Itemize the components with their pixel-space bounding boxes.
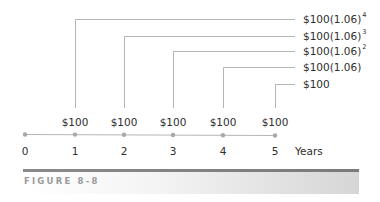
fv-base: $100(1.06)	[303, 45, 361, 57]
fv-exponent: 4	[362, 11, 366, 19]
year-label-1: 1	[72, 146, 79, 157]
fv-base: $100(1.06)	[303, 61, 361, 73]
payment-label-year-1: $100	[62, 117, 89, 128]
timeline-axis	[25, 135, 275, 136]
year-label-4: 4	[220, 146, 227, 157]
payment-label-year-2: $100	[111, 117, 138, 128]
connector-line-year-1	[76, 20, 296, 109]
timeline-dot-0	[23, 132, 27, 136]
timeline-dot-4	[221, 133, 225, 137]
payment-label-year-4: $100	[210, 117, 237, 128]
fv-base: $100	[303, 78, 330, 90]
fv-base: $100(1.06)	[303, 30, 361, 42]
payment-label-year-5: $100	[262, 117, 289, 128]
future-value-label-3: $100(1.06)2	[303, 46, 366, 57]
connector-line-year-3	[174, 52, 296, 109]
fv-exponent: 2	[362, 43, 366, 51]
figure-caption-rule	[23, 169, 359, 172]
connector-line-year-2	[125, 37, 296, 109]
payment-label-year-3: $100	[160, 117, 187, 128]
timeline-dot-2	[122, 133, 126, 137]
timeline-dot-1	[73, 132, 77, 136]
year-label-5: 5	[272, 146, 279, 157]
fv-base: $100(1.06)	[303, 13, 361, 25]
future-value-label-2: $100(1.06)3	[303, 31, 366, 42]
future-value-label-5: $100	[303, 79, 330, 90]
connector-line-year-5	[276, 85, 296, 109]
fv-exponent: 3	[362, 28, 366, 36]
year-label-3: 3	[170, 146, 177, 157]
future-value-label-1: $100(1.06)4	[303, 14, 366, 25]
year-label-0: 0	[22, 146, 29, 157]
timeline-dot-5	[273, 133, 277, 137]
year-label-2: 2	[121, 146, 128, 157]
figure-caption: FIGURE 8-8	[24, 177, 100, 186]
axis-label-years: Years	[295, 146, 323, 157]
future-value-label-4: $100(1.06)	[303, 62, 361, 73]
connector-line-year-4	[224, 68, 296, 109]
timeline-dot-3	[171, 133, 175, 137]
